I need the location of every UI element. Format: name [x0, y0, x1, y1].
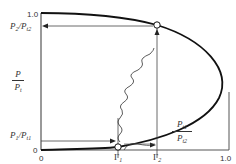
p2-ratio-label: P2/Pt2	[10, 22, 31, 34]
p1-sub2: t1	[27, 135, 32, 141]
x-tick-left: 0	[39, 154, 43, 163]
p1-sep: /P	[19, 130, 27, 140]
gamma2-label: Γ2	[153, 153, 161, 164]
p2-sep: /P	[19, 21, 27, 31]
arrowhead-right-icon	[110, 139, 116, 144]
shock-transition-arrow	[118, 48, 154, 142]
y-label-num: P	[15, 69, 21, 79]
x-tick-right: 1.0	[220, 154, 231, 163]
y-tick-bottom: 0	[33, 146, 37, 155]
y-tick-top: 1.0	[27, 10, 38, 19]
arrowhead-right-small-icon	[150, 143, 156, 148]
arrowhead-left-icon	[42, 24, 48, 29]
pt-den-sub: t2	[182, 138, 187, 144]
pt-fraction-bar	[172, 131, 192, 132]
fraction-bar	[12, 80, 24, 81]
pressure-ratio-curve	[41, 13, 222, 150]
arrowhead-up-icon	[155, 29, 160, 35]
pt-num-sub: t1	[182, 124, 187, 130]
y-axis-label: P Pt	[12, 69, 24, 93]
y-label-den-sub: t	[20, 87, 22, 93]
p1-ratio-label: P1/Pt1	[10, 131, 31, 143]
y-label-den: Pt	[14, 82, 21, 93]
pt-den: Pt2	[177, 133, 187, 144]
gamma2-sub: 2	[158, 157, 161, 163]
diagram-graphics	[0, 0, 236, 164]
state-point-1	[115, 144, 121, 150]
gamma1-sub: 1	[119, 157, 122, 163]
shock-pressure-diagram: 1.0 0 P2/Pt2 P1/Pt1 P Pt 0 1.0 Γ1 Γ2 Pt1…	[0, 0, 236, 164]
state-point-2	[154, 22, 160, 28]
pt-num: Pt1	[177, 119, 187, 130]
p2-sub2: t2	[27, 26, 32, 32]
gamma1-label: Γ1	[114, 153, 122, 164]
pt-ratio-annotation: Pt1 Pt2	[172, 119, 192, 144]
